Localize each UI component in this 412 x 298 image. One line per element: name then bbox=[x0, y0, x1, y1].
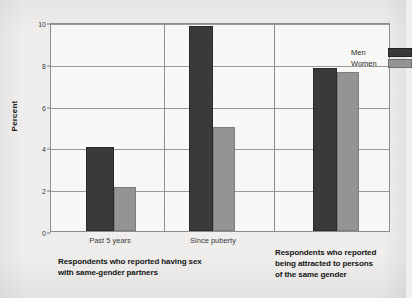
gridline-10 bbox=[51, 24, 389, 25]
y-tickmark-2 bbox=[47, 191, 51, 192]
y-axis-title: Percent bbox=[10, 101, 19, 132]
x-tick-label-past-5-years: Past 5 years bbox=[89, 236, 131, 245]
bar-men-attracted-same-gender bbox=[313, 68, 337, 231]
chart-legend: Men Women bbox=[351, 48, 412, 68]
y-tick-label-10: 10 bbox=[38, 21, 46, 28]
y-tickmark-4 bbox=[47, 149, 51, 150]
bar-men-since-puberty bbox=[189, 26, 213, 231]
legend-swatch-men-icon bbox=[388, 48, 412, 57]
group-separator-2 bbox=[274, 24, 275, 231]
group-caption-sex-partners-line1: Respondents who reported having sex bbox=[58, 256, 228, 267]
bar-women-since-puberty bbox=[213, 127, 235, 232]
bar-men-past-5-years bbox=[86, 147, 114, 231]
group-caption-attraction-line2: being attracted to persons bbox=[275, 258, 403, 269]
group-caption-attraction: Respondents who reported being attracted… bbox=[275, 247, 403, 280]
y-tickmark-6 bbox=[47, 107, 51, 108]
legend-label-men: Men bbox=[351, 48, 383, 57]
y-tick-label-6: 6 bbox=[42, 104, 46, 111]
y-tick-label-2: 2 bbox=[42, 188, 46, 195]
group-separator-1 bbox=[164, 24, 165, 231]
y-tick-label-0: 0 bbox=[42, 230, 46, 237]
group-caption-attraction-line3: of the same gender bbox=[275, 269, 403, 280]
group-caption-sex-partners-line2: with same-gender partners bbox=[58, 267, 228, 278]
group-caption-sex-partners: Respondents who reported having sex with… bbox=[58, 256, 228, 278]
gridline-8 bbox=[51, 66, 389, 67]
y-tickmark-10 bbox=[47, 24, 51, 25]
plot-area: 10 8 6 4 2 0 Men Women bbox=[50, 23, 390, 232]
legend-item-women: Women bbox=[351, 59, 412, 68]
legend-swatch-women-icon bbox=[388, 59, 412, 68]
legend-label-women: Women bbox=[351, 59, 383, 68]
x-tick-label-since-puberty: Since puberty bbox=[190, 236, 236, 245]
bar-women-attracted-same-gender bbox=[337, 72, 359, 231]
y-tick-label-8: 8 bbox=[42, 62, 46, 69]
y-tick-label-4: 4 bbox=[42, 146, 46, 153]
legend-item-men: Men bbox=[351, 48, 412, 57]
group-caption-attraction-line1: Respondents who reported bbox=[275, 247, 403, 258]
bar-women-past-5-years bbox=[114, 187, 136, 231]
y-tickmark-8 bbox=[47, 65, 51, 66]
y-tickmark-0 bbox=[47, 233, 51, 234]
